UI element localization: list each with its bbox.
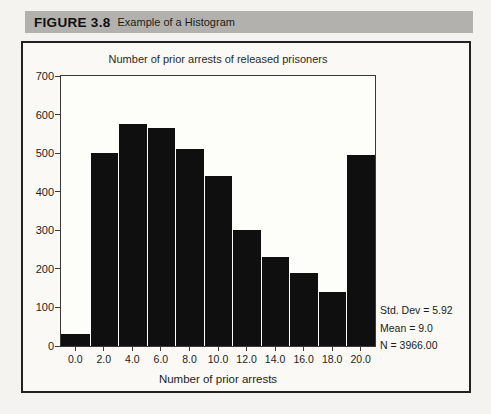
- x-tick-mark: [275, 347, 276, 351]
- x-tick-mark: [103, 347, 104, 351]
- y-tick-mark: [55, 307, 60, 308]
- plot-area: [60, 75, 376, 347]
- stat-line: Mean = 9.0: [380, 320, 453, 338]
- histogram-bar: [175, 149, 204, 346]
- histogram-bar: [318, 292, 347, 346]
- histogram-bar: [90, 153, 119, 346]
- y-tick-label: 100: [23, 300, 54, 314]
- stat-line: N = 3966.00: [380, 337, 453, 355]
- y-tick-mark: [55, 230, 60, 231]
- figure-header: FIGURE 3.8 Example of a Histogram: [25, 11, 473, 33]
- y-tick-mark: [55, 346, 60, 347]
- x-tick-mark: [360, 347, 361, 351]
- x-tick-mark: [132, 347, 133, 351]
- x-tick-label: 20.0: [341, 353, 381, 365]
- y-tick-label: 400: [23, 185, 54, 199]
- stat-line: Std. Dev = 5.92: [380, 302, 453, 320]
- x-tick-mark: [303, 347, 304, 351]
- histogram-bar: [232, 230, 261, 346]
- histogram-bar: [61, 334, 90, 346]
- chart-title: Number of prior arrests of released pris…: [60, 53, 376, 65]
- x-tick-mark: [218, 347, 219, 351]
- x-tick-mark: [75, 347, 76, 351]
- figure-label: FIGURE 3.8: [34, 15, 111, 30]
- y-tick-mark: [55, 153, 60, 154]
- y-tick-mark: [55, 191, 60, 192]
- figure-box: Number of prior arrests of released pris…: [21, 41, 471, 393]
- y-tick-mark: [55, 114, 60, 115]
- histogram-bar: [147, 128, 176, 346]
- x-axis-title: Number of prior arrests: [60, 373, 376, 385]
- x-tick-mark: [160, 347, 161, 351]
- x-tick-mark: [246, 347, 247, 351]
- y-tick-label: 0: [23, 339, 54, 353]
- y-tick-label: 700: [23, 69, 54, 83]
- y-tick-mark: [55, 76, 60, 77]
- y-tick-mark: [55, 268, 60, 269]
- figure-caption: Example of a Histogram: [118, 16, 235, 28]
- stats-annotation: Std. Dev = 5.92Mean = 9.0N = 3966.00: [380, 302, 453, 355]
- y-tick-label: 200: [23, 262, 54, 276]
- histogram-bar: [346, 155, 375, 346]
- y-tick-label: 500: [23, 146, 54, 160]
- histogram-bar: [118, 124, 147, 346]
- y-tick-label: 300: [23, 223, 54, 237]
- histogram-bar: [261, 257, 290, 346]
- x-tick-mark: [189, 347, 190, 351]
- x-tick-mark: [332, 347, 333, 351]
- histogram-bar: [204, 176, 233, 346]
- y-tick-label: 600: [23, 108, 54, 122]
- histogram-bar: [289, 273, 318, 346]
